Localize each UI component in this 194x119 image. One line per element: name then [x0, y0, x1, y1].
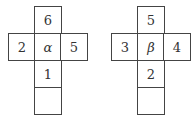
net-alpha-left-face: 2 — [8, 33, 36, 61]
net-alpha-bottom-face — [34, 87, 62, 115]
net-beta-below-face: 2 — [137, 60, 165, 88]
net-beta-center-face: β — [137, 33, 165, 61]
net-alpha-below-face: 1 — [34, 60, 62, 88]
net-alpha-right-face: 5 — [60, 33, 88, 61]
net-alpha-center-face: α — [34, 33, 62, 61]
net-beta-bottom-face — [137, 87, 165, 115]
cube-nets-diagram: 6 2 α 5 1 5 3 β 4 2 — [0, 0, 194, 119]
net-beta-left-face: 3 — [111, 33, 139, 61]
net-beta-right-face: 4 — [163, 33, 191, 61]
net-alpha-top-face: 6 — [34, 6, 62, 34]
net-beta-top-face: 5 — [137, 6, 165, 34]
